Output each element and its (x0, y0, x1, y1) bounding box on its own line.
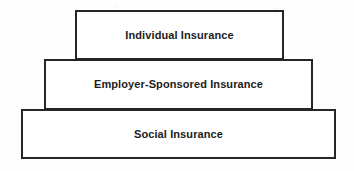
insurance-tiers-diagram: Individual Insurance Employer-Sponsored … (0, 0, 354, 171)
tier-label-individual-insurance: Individual Insurance (125, 30, 233, 41)
tier-label-employer-sponsored-insurance: Employer-Sponsored Insurance (94, 79, 263, 90)
tier-box-individual-insurance: Individual Insurance (75, 10, 284, 60)
tier-box-employer-sponsored-insurance: Employer-Sponsored Insurance (44, 59, 313, 110)
tier-label-social-insurance: Social Insurance (134, 129, 223, 140)
tier-box-social-insurance: Social Insurance (21, 109, 336, 159)
